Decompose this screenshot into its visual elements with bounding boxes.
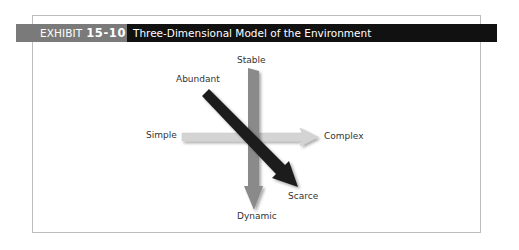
label-dynamic: Dynamic xyxy=(237,211,277,221)
label-abundant: Abundant xyxy=(176,74,220,84)
exhibit-title: Three-Dimensional Model of the Environme… xyxy=(127,24,497,42)
label-complex: Complex xyxy=(324,131,363,141)
exhibit-header: EXHIBIT 15-10 Three-Dimensional Model of… xyxy=(16,24,497,42)
exhibit-label-box: EXHIBIT 15-10 xyxy=(16,24,127,42)
label-simple: Simple xyxy=(146,130,177,140)
exhibit-number: 15-10 xyxy=(86,26,126,40)
label-scarce: Scarce xyxy=(288,191,318,201)
exhibit-word: EXHIBIT xyxy=(40,27,82,39)
label-stable: Stable xyxy=(237,55,266,65)
